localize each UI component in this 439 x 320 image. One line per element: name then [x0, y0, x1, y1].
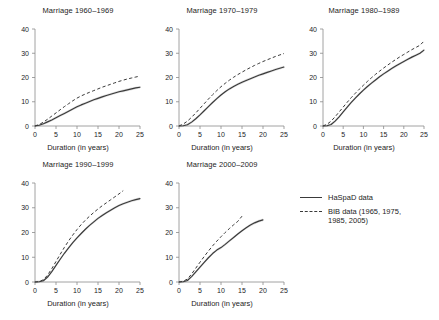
chart-panel-4: Marriage 1990–19990102030400510152025Dur…: [8, 160, 148, 312]
legend-solid-line-icon: [300, 197, 322, 198]
y-tick-label: 0: [25, 279, 29, 286]
x-tick-label: 5: [54, 131, 58, 138]
y-tick-label: 30: [165, 50, 173, 57]
x-tick-label: 0: [33, 287, 37, 294]
chart-panel-3: Marriage 1980–19890102030400510152025Dur…: [296, 6, 432, 156]
x-axis-label: Duration (in years): [296, 143, 432, 152]
confidence-band: [323, 49, 424, 128]
panel-title: Marriage 1980–1989: [296, 6, 432, 15]
y-tick-label: 40: [165, 180, 173, 187]
confidence-band: [35, 197, 140, 283]
chart-panel-1: Marriage 1960–19690102030400510152025Dur…: [8, 6, 148, 156]
x-tick-label: 10: [217, 287, 225, 294]
x-tick-label: 5: [54, 287, 58, 294]
legend-item: BIB data (1965, 1975, 1985, 2005): [300, 207, 435, 225]
legend-dashed-line-icon: [300, 211, 322, 212]
confidence-band: [179, 219, 263, 284]
chart-legend: HaSpaD dataBIB data (1965, 1975, 1985, 2…: [300, 193, 435, 230]
y-tick-label: 20: [21, 229, 29, 236]
series-line-bib: [179, 216, 242, 282]
x-tick-label: 10: [360, 131, 368, 138]
x-tick-label: 15: [238, 131, 246, 138]
x-tick-label: 15: [238, 287, 246, 294]
series-line-haspad: [179, 67, 284, 126]
y-tick-label: 30: [309, 50, 317, 57]
y-tick-label: 10: [21, 254, 29, 261]
x-tick-label: 15: [380, 131, 388, 138]
x-tick-label: 15: [94, 131, 102, 138]
x-axis-label: Duration (in years): [8, 299, 148, 308]
y-tick-label: 0: [169, 279, 173, 286]
y-tick-label: 30: [21, 50, 29, 57]
x-tick-label: 0: [33, 131, 37, 138]
y-tick-label: 30: [21, 204, 29, 211]
legend-label: BIB data (1965, 1975, 1985, 2005): [328, 207, 435, 225]
series-line-bib: [35, 76, 140, 126]
x-axis-label: Duration (in years): [8, 143, 148, 152]
x-axis-label: Duration (in years): [152, 143, 292, 152]
confidence-band: [35, 86, 140, 127]
y-tick-label: 40: [165, 26, 173, 33]
x-tick-label: 15: [94, 287, 102, 294]
x-tick-label: 20: [259, 287, 267, 294]
y-tick-label: 0: [169, 123, 173, 130]
x-tick-label: 20: [115, 287, 123, 294]
x-tick-label: 25: [280, 131, 288, 138]
y-tick-label: 10: [165, 98, 173, 105]
y-tick-label: 0: [313, 123, 317, 130]
panel-plot-area: 0102030400510152025: [8, 171, 148, 312]
panel-title: Marriage 1990–1999: [8, 160, 148, 169]
panel-plot-area: 0102030400510152025: [152, 171, 292, 312]
y-tick-label: 20: [309, 74, 317, 81]
y-tick-label: 10: [21, 98, 29, 105]
y-tick-label: 40: [21, 180, 29, 187]
x-tick-label: 25: [280, 287, 288, 294]
panel-plot-area: 0102030400510152025: [296, 17, 432, 156]
panel-plot-area: 0102030400510152025: [8, 17, 148, 156]
y-tick-label: 20: [165, 229, 173, 236]
x-tick-label: 25: [420, 131, 428, 138]
panel-title: Marriage 1960–1969: [8, 6, 148, 15]
series-line-haspad: [35, 199, 140, 282]
multi-panel-chart-figure: Marriage 1960–19690102030400510152025Dur…: [0, 0, 439, 320]
x-tick-label: 5: [198, 131, 202, 138]
y-tick-label: 20: [165, 74, 173, 81]
x-tick-label: 10: [73, 287, 81, 294]
panel-plot-area: 0102030400510152025: [152, 17, 292, 156]
y-tick-label: 40: [21, 26, 29, 33]
x-tick-label: 5: [198, 287, 202, 294]
x-tick-label: 5: [341, 131, 345, 138]
series-line-haspad: [179, 220, 263, 282]
x-tick-label: 10: [217, 131, 225, 138]
confidence-band: [179, 66, 284, 128]
series-line-bib: [323, 41, 424, 126]
legend-label: HaSpaD data: [328, 193, 435, 202]
panel-title: Marriage 1970–1979: [152, 6, 292, 15]
x-tick-label: 25: [136, 131, 144, 138]
chart-panel-5: Marriage 2000–20090102030400510152025Dur…: [152, 160, 292, 312]
x-tick-label: 25: [136, 287, 144, 294]
chart-panel-2: Marriage 1970–19790102030400510152025Dur…: [152, 6, 292, 156]
x-tick-label: 10: [73, 131, 81, 138]
series-line-haspad: [323, 50, 424, 126]
series-line-bib: [179, 53, 284, 126]
y-tick-label: 10: [309, 98, 317, 105]
x-tick-label: 0: [177, 287, 181, 294]
x-tick-label: 0: [321, 131, 325, 138]
x-tick-label: 20: [259, 131, 267, 138]
x-tick-label: 20: [400, 131, 408, 138]
x-tick-label: 0: [177, 131, 181, 138]
y-tick-label: 0: [25, 123, 29, 130]
x-tick-label: 20: [115, 131, 123, 138]
x-axis-label: Duration (in years): [152, 299, 292, 308]
y-tick-label: 40: [309, 26, 317, 33]
y-tick-label: 20: [21, 74, 29, 81]
legend-item: HaSpaD data: [300, 193, 435, 202]
y-tick-label: 10: [165, 254, 173, 261]
panel-title: Marriage 2000–2009: [152, 160, 292, 169]
y-tick-label: 30: [165, 204, 173, 211]
